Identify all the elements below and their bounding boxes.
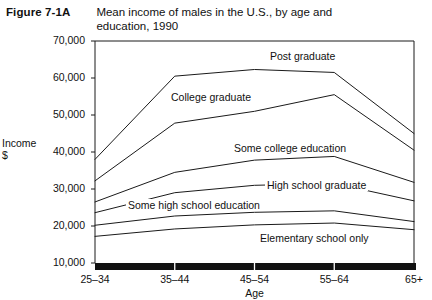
series-line xyxy=(95,95,414,181)
figure-container: Figure 7-1A Mean income of males in the … xyxy=(0,0,432,300)
y-axis-tick-label: 30,000 xyxy=(29,183,85,194)
series-label: Some college education xyxy=(232,142,348,154)
series-label: Elementary school only xyxy=(258,232,371,244)
x-axis-tick-label: 35–44 xyxy=(135,274,215,285)
y-axis-tick-label: 60,000 xyxy=(29,72,85,83)
series-label: High school graduate xyxy=(265,179,368,191)
x-axis-tick-label: 55–64 xyxy=(294,274,374,285)
series-label: College graduate xyxy=(169,91,253,103)
x-axis-tick-label: 45–54 xyxy=(215,274,295,285)
series-label: Some high school education xyxy=(126,199,262,211)
series-label: Post graduate xyxy=(268,50,337,62)
series-line xyxy=(95,211,414,225)
y-axis-tick-label: 10,000 xyxy=(29,257,85,268)
x-axis-title: Age xyxy=(215,287,295,299)
chart-plot-area: 70,00060,00050,00040,00030,00020,00010,0… xyxy=(0,0,432,300)
y-axis-title-line2: $ xyxy=(2,149,8,161)
y-axis-tick-label: 70,000 xyxy=(29,35,85,46)
y-axis-tick-label: 50,000 xyxy=(29,109,85,120)
x-axis-tick-label: 25–34 xyxy=(55,274,135,285)
x-axis-tick-label: 65+ xyxy=(374,274,432,285)
x-axis-bar xyxy=(95,263,416,270)
y-axis-tick-label: 40,000 xyxy=(29,146,85,157)
y-axis-tick-label: 20,000 xyxy=(29,220,85,231)
y-axis-title-line1: Income xyxy=(2,137,36,149)
